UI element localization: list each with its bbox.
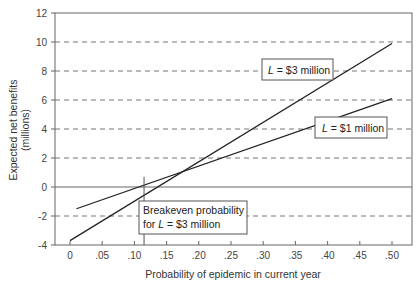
y-tick-label: -2: [38, 211, 47, 222]
x-axis-title: Probability of epidemic in current year: [145, 268, 321, 280]
x-tick-label: .35: [288, 250, 302, 261]
series-line-l1: [76, 99, 392, 209]
x-tick-label: .30: [256, 250, 270, 261]
x-tick-label: 0: [67, 250, 73, 261]
breakeven-label-line1: Breakeven probability: [143, 204, 245, 216]
y-axis-title-line1: Expected net benefits: [7, 80, 19, 181]
y-axis-title-line2: (millions): [19, 109, 31, 151]
x-tick-label: .45: [353, 250, 367, 261]
x-tick-label: .05: [95, 250, 109, 261]
y-tick-label: 2: [41, 153, 47, 164]
y-tick-label: 12: [36, 8, 48, 19]
y-tick-label: 6: [41, 95, 47, 106]
x-tick-label: .40: [321, 250, 335, 261]
x-tick-label: .25: [224, 250, 238, 261]
y-tick-label: 0: [41, 182, 47, 193]
y-axis-title: Expected net benefits (millions): [7, 80, 31, 181]
x-tick-label: .20: [192, 250, 206, 261]
y-tick-label: 4: [41, 124, 47, 135]
label-l3: L = $3 million: [268, 64, 330, 76]
x-tick-label: .10: [127, 250, 141, 261]
y-tick-label: -4: [38, 240, 47, 251]
x-tick-label: .15: [160, 250, 174, 261]
breakeven-label-line2: for L = $3 million: [143, 218, 220, 230]
y-tick-label: 10: [36, 37, 48, 48]
breakeven-chart: -4-20246810120.05.10.15.20.25.30.35.40.4…: [0, 0, 418, 284]
y-tick-label: 8: [41, 66, 47, 77]
x-tick-label: .50: [385, 250, 399, 261]
annotations: L = $3 millionL = $1 millionBreakeven pr…: [139, 59, 387, 245]
label-l1: L = $1 million: [322, 122, 384, 134]
